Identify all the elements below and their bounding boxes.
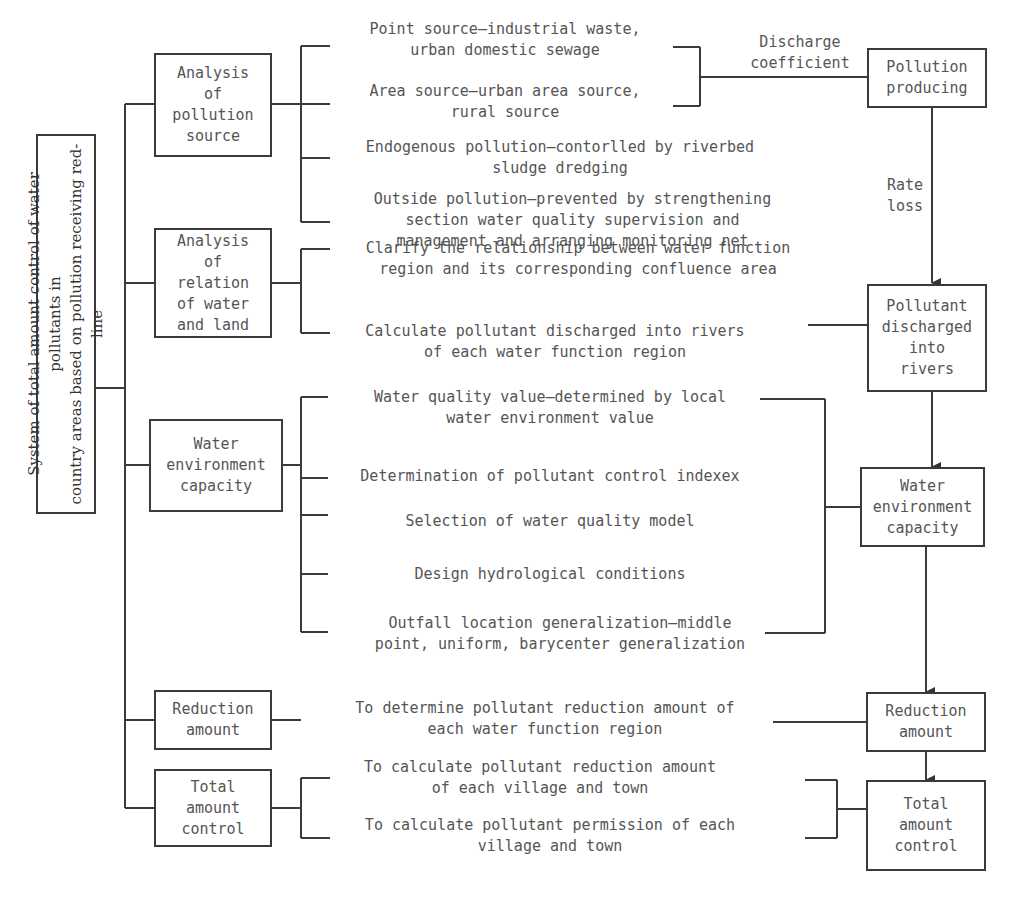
edge-label-rate-loss: Rate loss (880, 175, 930, 217)
category-total-amount-control: Total amount control (154, 769, 272, 847)
category-reduction-amount: Reduction amount (154, 690, 272, 750)
flow-water-environment-capacity: Water environment capacity (860, 467, 985, 547)
diagram: System of total amount control of water … (0, 0, 1028, 899)
flow-total-amount-control: Total amount control (866, 780, 986, 871)
category-pollution-source: Analysis of pollution source (154, 53, 272, 157)
flow-pollution-producing: Pollution producing (867, 48, 987, 108)
edge-label-discharge-coefficient: Discharge coefficient (735, 32, 865, 74)
root-system-box: System of total amount control of water … (36, 134, 96, 514)
item-calculate-discharged: Calculate pollutant discharged into rive… (335, 321, 775, 363)
item-pollutant-control-index: Determination of pollutant control index… (330, 466, 770, 487)
item-point-source: Point source—industrial waste, urban dom… (340, 19, 670, 61)
item-endogenous-pollution: Endogenous pollution—contorlled by river… (330, 137, 790, 179)
flow-reduction-amount: Reduction amount (866, 692, 986, 752)
item-area-source: Area source—urban area source, rural sou… (340, 81, 670, 123)
item-outfall-generalization: Outfall location generalization—middle p… (325, 613, 795, 655)
flow-pollutant-discharged: Pollutant discharged into rivers (867, 284, 987, 392)
item-calc-reduction-village: To calculate pollutant reduction amount … (320, 757, 760, 799)
category-water-environment-capacity: Water environment capacity (149, 419, 283, 512)
item-water-quality-model: Selection of water quality model (330, 511, 770, 532)
item-hydrological-conditions: Design hydrological conditions (330, 564, 770, 585)
item-calc-permission-village: To calculate pollutant permission of eac… (320, 815, 780, 857)
item-determine-reduction: To determine pollutant reduction amount … (320, 698, 770, 740)
item-water-quality-value: Water quality value—determined by local … (330, 387, 770, 429)
root-title: System of total amount control of water … (24, 139, 108, 509)
item-clarify-relationship: Clarify the relationship between water f… (328, 238, 828, 280)
category-water-land-relation: Analysis of relation of water and land (154, 228, 272, 338)
